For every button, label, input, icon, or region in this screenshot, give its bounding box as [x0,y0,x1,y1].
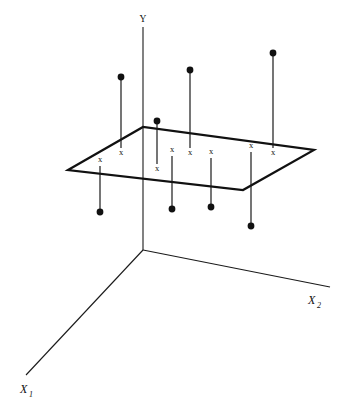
regression-plane [68,127,314,190]
xmark-obs-1: x [98,154,103,164]
x2-axis-label-group: X 2 [307,293,321,310]
datapoint-obs-1 [97,209,104,216]
x2-axis-label-subscript: 2 [317,301,321,310]
xmark-obs-5: x [188,147,193,157]
x1-axis-label-group: X 1 [19,382,33,399]
xmark-obs-2: x [119,147,124,157]
datapoint-obs-8 [270,50,277,57]
xmark-obs-6: x [209,146,214,156]
datapoint-obs-2 [118,74,125,81]
datapoint-obs-5 [187,67,194,74]
y-axis-label: Y [140,14,147,24]
x1-axis-label-subscript: 1 [29,390,33,399]
xmark-obs-8: x [271,147,276,157]
x1-axis-line [26,250,143,375]
datapoint-obs-7 [248,223,255,230]
regression-plane-figure: x x x x x x x x Y X 2 X 1 [0,0,349,416]
x1-axis-label: X [19,382,28,396]
datapoint-obs-6 [208,204,215,211]
xmark-obs-3: x [155,163,160,173]
observation-group: x x x x x x x x [97,50,277,230]
xmark-obs-4: x [170,144,175,154]
datapoint-obs-4 [169,206,176,213]
x2-axis-line [143,250,330,287]
x2-axis-label: X [307,293,316,307]
datapoint-obs-3 [154,118,161,125]
